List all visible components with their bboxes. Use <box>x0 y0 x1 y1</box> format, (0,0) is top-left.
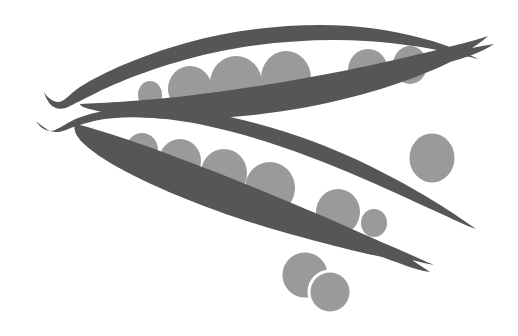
illustration-canvas: Two open pea pods with peas <box>0 0 518 336</box>
pea-loose-bottom-right <box>309 271 351 313</box>
pea-loose-right <box>408 132 456 184</box>
pea-l6 <box>361 209 387 237</box>
pea-pods-illustration <box>0 0 518 336</box>
